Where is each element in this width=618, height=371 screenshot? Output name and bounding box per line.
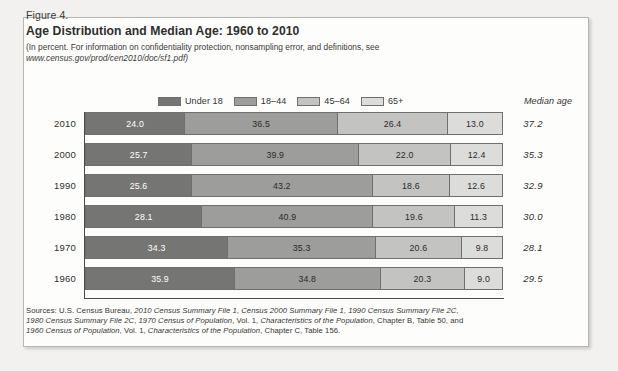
bar-segment-value: 11.3: [470, 212, 487, 222]
bar-segment: 39.9: [192, 143, 359, 166]
bar-segment-value: 9.8: [476, 243, 489, 253]
bar-segment-value: 25.7: [130, 150, 148, 160]
legend-swatch-icon: [297, 97, 320, 106]
legend-swatch-icon: [234, 97, 257, 106]
bar-segment: 43.2: [192, 174, 373, 197]
chart-bar-row: 197034.335.320.69.828.1: [26, 236, 554, 259]
stacked-bar: 24.036.526.413.0: [85, 112, 503, 135]
year-axis-label: 1970: [26, 236, 76, 259]
bar-segment: 12.4: [451, 143, 503, 166]
bar-segment: 20.6: [376, 236, 462, 259]
bar-segment-value: 24.0: [126, 119, 144, 129]
bar-segment: 20.3: [381, 267, 466, 290]
bar-segment: 34.3: [85, 236, 228, 259]
year-axis-label: 1960: [26, 267, 76, 290]
sources-line-2: 1980 Census Summary File 2C, 1970 Census…: [26, 316, 463, 325]
year-axis-label: 2000: [26, 143, 76, 166]
median-age-value: 37.2: [512, 112, 554, 135]
stacked-bar: 28.140.919.611.3: [85, 205, 503, 228]
bar-segment-value: 35.9: [151, 274, 169, 284]
bar-segment-value: 34.8: [298, 274, 316, 284]
median-age-value: 29.5: [512, 267, 554, 290]
legend-swatch-icon: [361, 97, 384, 106]
median-age-value: 32.9: [512, 174, 554, 197]
chart-bar-row: 200025.739.922.012.435.3: [26, 143, 554, 166]
bar-segment: 34.8: [235, 267, 380, 290]
bar-segment-value: 36.5: [252, 119, 270, 129]
legend-label: Under 18: [185, 96, 223, 106]
bar-segment-value: 40.9: [279, 212, 297, 222]
bar-segment: 12.6: [450, 174, 503, 197]
legend-item: 65+: [361, 96, 404, 106]
chart-bar-row: 196035.934.820.39.029.5: [26, 267, 554, 290]
bar-segment-value: 43.2: [273, 181, 291, 191]
bar-segment-value: 39.9: [266, 150, 284, 160]
stacked-bar: 25.739.922.012.4: [85, 143, 503, 166]
bar-segment-value: 20.6: [410, 243, 428, 253]
legend-label: 18–44: [261, 96, 287, 106]
chart-legend: Under 1818–4445–6465+: [158, 96, 403, 106]
bar-segment: 11.3: [455, 205, 502, 228]
bar-segment-value: 12.4: [468, 150, 486, 160]
legend-label: 65+: [388, 96, 404, 106]
bar-segment: 25.6: [85, 174, 192, 197]
legend-label: 45–64: [324, 96, 350, 106]
median-age-column-header: Median age: [524, 96, 572, 106]
chart-bar-row: 199025.643.218.612.632.9: [26, 174, 554, 197]
sources-line-1: Sources: U.S. Census Bureau, 2010 Census…: [26, 306, 459, 315]
bar-segment: 28.1: [85, 205, 202, 228]
bar-segment-value: 20.3: [414, 274, 432, 284]
legend-item: Under 18: [158, 96, 223, 106]
legend-item: 18–44: [234, 96, 287, 106]
median-age-value: 28.1: [512, 236, 554, 259]
bar-segment: 35.3: [228, 236, 376, 259]
bar-segment: 26.4: [338, 112, 448, 135]
x-axis-baseline: [84, 298, 504, 299]
median-age-value: 35.3: [512, 143, 554, 166]
stacked-bar: 35.934.820.39.0: [85, 267, 503, 290]
bar-segment-value: 18.6: [402, 181, 420, 191]
figure-subtitle: (In percent. For information on confiden…: [26, 42, 456, 63]
bar-segment: 9.8: [462, 236, 503, 259]
year-axis-label: 2010: [26, 112, 76, 135]
bar-segment: 22.0: [359, 143, 451, 166]
bar-segment-value: 13.0: [466, 119, 484, 129]
bar-segment: 35.9: [85, 267, 235, 290]
figure-number: Figure 4.: [26, 9, 602, 22]
bar-segment-value: 9.0: [477, 274, 490, 284]
legend-item: 45–64: [297, 96, 350, 106]
figure-subtitle-url: www.census.gov/prod/cen2010/doc/sf1.pdf): [26, 53, 188, 63]
stacked-bar: 34.335.320.69.8: [85, 236, 503, 259]
bar-segment: 36.5: [185, 112, 338, 135]
bar-segment: 13.0: [448, 112, 502, 135]
bar-segment-value: 35.3: [293, 243, 311, 253]
year-axis-label: 1980: [26, 205, 76, 228]
legend-swatch-icon: [158, 97, 181, 106]
year-axis-label: 1990: [26, 174, 76, 197]
bar-segment-value: 34.3: [148, 243, 166, 253]
figure-subtitle-line1: (In percent. For information on confiden…: [26, 42, 379, 52]
stacked-bar: 25.643.218.612.6: [85, 174, 503, 197]
sources-line-3: 1960 Census of Population, Vol. 1, Chara…: [26, 326, 340, 335]
bar-segment-value: 19.6: [405, 212, 423, 222]
bar-segment-value: 28.1: [135, 212, 153, 222]
chart-bar-row: 201024.036.526.413.037.2: [26, 112, 554, 135]
bar-segment: 9.0: [465, 267, 503, 290]
chart-bar-row: 198028.140.919.611.330.0: [26, 205, 554, 228]
bar-segment: 40.9: [202, 205, 373, 228]
bar-segment: 25.7: [85, 143, 192, 166]
chart-plot-area: 201024.036.526.413.037.2200025.739.922.0…: [26, 112, 554, 298]
sources-note: Sources: U.S. Census Bureau, 2010 Census…: [26, 306, 604, 336]
figure-title: Age Distribution and Median Age: 1960 to…: [26, 23, 602, 39]
bar-segment: 19.6: [373, 205, 455, 228]
figure-header: Figure 4. Age Distribution and Median Ag…: [26, 9, 602, 63]
median-age-value: 30.0: [512, 205, 554, 228]
bar-segment-value: 12.6: [467, 181, 485, 191]
bar-segment-value: 22.0: [396, 150, 414, 160]
bar-segment-value: 25.6: [130, 181, 148, 191]
bar-segment: 18.6: [373, 174, 451, 197]
bar-segment-value: 26.4: [384, 119, 402, 129]
bar-segment: 24.0: [85, 112, 185, 135]
